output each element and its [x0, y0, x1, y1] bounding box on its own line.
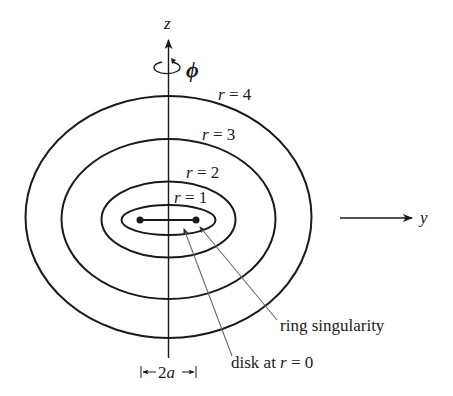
z-axis-label: z: [163, 14, 171, 33]
disk-label: disk at r = 0: [231, 353, 313, 372]
ring-point-right: [193, 217, 200, 224]
ring-point-left: [137, 217, 144, 224]
ring-pointer: [200, 227, 277, 320]
label-r1: r = 1: [174, 188, 207, 207]
z-axis: z: [163, 14, 171, 358]
y-axis: y: [340, 208, 428, 227]
label-r4: r = 4: [218, 85, 252, 104]
ring-singularity-label: ring singularity: [280, 316, 385, 335]
pointer-lines: [184, 227, 277, 356]
width-label: 2a: [158, 363, 175, 382]
label-r2: r = 2: [186, 163, 219, 182]
phi-rotation-icon: [154, 58, 180, 74]
y-axis-label: y: [418, 208, 428, 227]
phi-label: ϕ: [186, 57, 199, 82]
oblate-spheroidal-diagram: z ϕ r = 4 r = 3 r = 2 r = 1 ring singula…: [0, 0, 453, 396]
width-dimension: 2a: [141, 363, 196, 382]
label-r3: r = 3: [202, 125, 235, 144]
